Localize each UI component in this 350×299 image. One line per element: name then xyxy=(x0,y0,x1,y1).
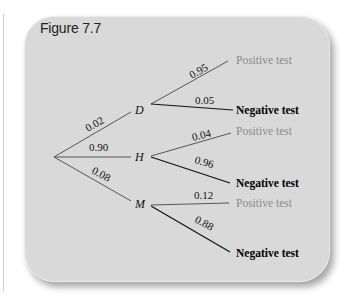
outcome-d-negative: Negative test xyxy=(236,104,299,117)
outcome-m-negative: Negative test xyxy=(236,247,299,260)
prob-h: 0.90 xyxy=(89,141,109,153)
outcome-d-positive: Positive test xyxy=(236,54,293,66)
prob-d: 0.02 xyxy=(83,114,106,134)
branch-root-m xyxy=(54,157,131,201)
probability-tree-diagram: 0.02 0.90 0.08 D H M 0.95 0.05 Positive … xyxy=(0,0,350,299)
node-d: D xyxy=(134,103,144,117)
outcome-h-negative: Negative test xyxy=(236,177,299,190)
prob-m-negative: 0.88 xyxy=(193,213,216,233)
branch-m-negative xyxy=(151,206,230,252)
prob-h-negative: 0.96 xyxy=(193,153,215,170)
branch-d-negative xyxy=(151,104,233,110)
outcome-m-positive: Positive test xyxy=(236,197,293,209)
prob-d-negative: 0.05 xyxy=(195,94,215,106)
branch-m-positive xyxy=(151,203,229,205)
branch-h-negative xyxy=(151,157,230,183)
outcome-h-positive: Positive test xyxy=(236,125,293,137)
prob-m-positive: 0.12 xyxy=(194,189,213,201)
prob-h-positive: 0.04 xyxy=(191,127,213,143)
prob-m: 0.08 xyxy=(90,164,113,184)
node-h: H xyxy=(134,150,145,164)
branch-d-positive xyxy=(151,61,228,104)
node-m: M xyxy=(134,197,146,211)
